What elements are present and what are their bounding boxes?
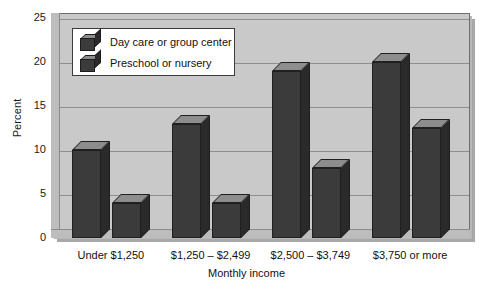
y-tick-label: 10 (20, 143, 46, 155)
bar-front-face (172, 124, 201, 238)
bar (412, 119, 441, 238)
y-tick-label: 25 (20, 11, 46, 23)
bar-side-face (301, 62, 310, 238)
bar-front-face (412, 128, 441, 238)
bar-front-face (272, 71, 301, 238)
cube-icon (80, 55, 102, 72)
x-tick-label: $3,750 or more (360, 249, 460, 261)
legend-item-label: Day care or group center (110, 36, 232, 48)
bar (72, 141, 101, 238)
bar (312, 159, 341, 238)
bar-side-face (101, 141, 110, 238)
y-tick-label: 15 (20, 99, 46, 111)
bar-chart: Percent 0510152025 Day care or group cen… (0, 0, 493, 303)
bar (172, 115, 201, 238)
y-axis-ticks: 0510152025 (18, 0, 46, 303)
cube-icon (80, 34, 102, 51)
bar-front-face (372, 62, 401, 238)
y-tick-label: 5 (20, 187, 46, 199)
x-tick-label: Under $1,250 (61, 249, 161, 261)
bar (212, 194, 241, 238)
bar-side-face (401, 53, 410, 238)
bar-front-face (72, 150, 101, 238)
y-tick-label: 20 (20, 55, 46, 67)
legend-item-label: Preschool or nursery (110, 57, 212, 69)
bar-front-face (312, 168, 341, 238)
bar-side-face (341, 159, 350, 238)
bar (272, 62, 301, 238)
x-axis-title: Monthly income (0, 267, 493, 279)
plot-left-wall (51, 13, 60, 238)
bar (112, 194, 141, 238)
x-tick-label: $1,250 – $2,499 (161, 249, 261, 261)
x-tick-label: $2,500 – $3,749 (261, 249, 361, 261)
bar-front-face (112, 203, 141, 238)
y-tick-label: 0 (20, 231, 46, 243)
gridline (52, 19, 469, 20)
bar-side-face (201, 115, 210, 238)
legend: Day care or group center Preschool or nu… (72, 28, 235, 76)
bar (372, 53, 401, 238)
bar-side-face (441, 119, 450, 238)
legend-item-preschool: Preschool or nursery (80, 53, 212, 73)
bar-front-face (212, 203, 241, 238)
legend-item-day-care: Day care or group center (80, 32, 232, 52)
